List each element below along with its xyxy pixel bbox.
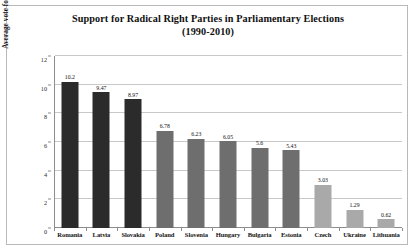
bar-value-label: 0.62 <box>381 212 391 218</box>
bar-slot: 5.43 <box>275 56 307 228</box>
x-label-poland: Poland <box>149 231 181 238</box>
x-tick-mark <box>117 228 118 231</box>
y-axis-title: Average vote for radical right parties (… <box>2 0 16 72</box>
chart-title: Support for Radical Right Parties in Par… <box>7 13 409 38</box>
bar-value-label: 1.29 <box>349 202 359 208</box>
y-tick-mark-0 <box>48 228 51 229</box>
bar[interactable] <box>93 92 110 228</box>
bar-slot: 0.62 <box>370 56 402 228</box>
y-axis-tick-labels: 024681012 <box>29 56 51 228</box>
bar-slot: 8.97 <box>117 56 149 228</box>
x-label-bulgaria: Bulgaria <box>244 231 276 238</box>
bar-value-label: 9.47 <box>96 85 106 91</box>
chart-title-line-2: (1990-2010) <box>7 26 409 39</box>
bar[interactable] <box>251 148 268 228</box>
bar-value-label: 6.78 <box>160 123 170 129</box>
x-label-romania: Romania <box>54 231 86 238</box>
bar-slot: 9.47 <box>86 56 118 228</box>
y-tick-mark-6 <box>48 142 51 143</box>
x-label-ukraine: Ukraine <box>339 231 371 238</box>
bar-value-label: 5.43 <box>286 143 296 149</box>
bar-slot: 6.78 <box>149 56 181 228</box>
bar[interactable] <box>283 150 300 228</box>
bar[interactable] <box>125 99 142 228</box>
bar[interactable] <box>156 131 173 228</box>
x-axis-category-labels: RomaniaLatviaSlovakiaPolandSloveniaHunga… <box>54 231 402 247</box>
y-tick-mark-2 <box>48 199 51 200</box>
x-tick-mark <box>181 228 182 231</box>
bar[interactable] <box>378 219 395 228</box>
x-tick-mark <box>275 228 276 231</box>
y-tick-mark-8 <box>48 113 51 114</box>
chart-title-line-1: Support for Radical Right Parties in Par… <box>72 13 344 24</box>
x-tick-mark <box>149 228 150 231</box>
bar-slot: 5.6 <box>244 56 276 228</box>
bar-slot: 1.29 <box>339 56 371 228</box>
y-tick-mark-4 <box>48 170 51 171</box>
bar-series: 10.29.478.976.786.236.055.65.433.031.290… <box>54 56 402 228</box>
bar-value-label: 8.97 <box>128 92 138 98</box>
bar-value-label: 6.23 <box>191 131 201 137</box>
bar-slot: 6.23 <box>181 56 213 228</box>
y-tick-mark-10 <box>48 84 51 85</box>
x-tick-mark <box>244 228 245 231</box>
y-tick-mark-12 <box>48 56 51 57</box>
x-tick-mark <box>402 228 403 231</box>
x-label-slovenia: Slovenia <box>181 231 213 238</box>
bar[interactable] <box>61 82 78 228</box>
x-tick-mark <box>339 228 340 231</box>
bar-slot: 3.03 <box>307 56 339 228</box>
x-tick-mark <box>86 228 87 231</box>
bar-value-label: 6.05 <box>223 134 233 140</box>
bar-value-label: 10.2 <box>65 74 75 80</box>
bar[interactable] <box>188 139 205 228</box>
x-label-latvia: Latvia <box>86 231 118 238</box>
x-tick-mark <box>307 228 308 231</box>
bar[interactable] <box>314 185 331 228</box>
x-tick-mark <box>212 228 213 231</box>
x-tick-mark <box>370 228 371 231</box>
bar[interactable] <box>346 210 363 228</box>
chart-frame: Support for Radical Right Parties in Par… <box>6 5 408 245</box>
x-label-lithuania: Lithuania <box>370 231 402 238</box>
bar-slot: 6.05 <box>212 56 244 228</box>
x-tick-mark <box>54 228 55 231</box>
bar[interactable] <box>219 141 236 228</box>
x-label-czech: Czech <box>307 231 339 238</box>
bar-value-label: 5.6 <box>256 140 263 146</box>
x-label-hungary: Hungary <box>212 231 244 238</box>
x-label-slovakia: Slovakia <box>117 231 149 238</box>
bar-slot: 10.2 <box>54 56 86 228</box>
x-label-estonia: Estonia <box>275 231 307 238</box>
bar-value-label: 3.03 <box>318 177 328 183</box>
